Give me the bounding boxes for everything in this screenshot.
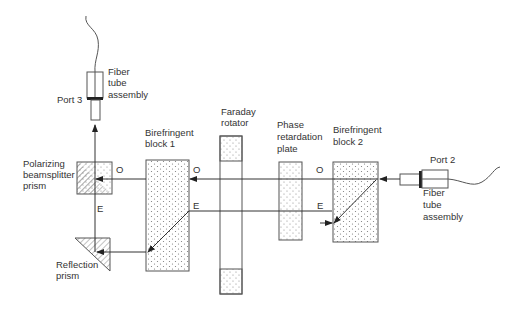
label-phase-3: plate xyxy=(277,143,298,154)
label-fiber-top-2: tube xyxy=(108,77,127,88)
label-fiber-right-1: Fiber xyxy=(423,187,445,198)
label-faraday-1: Faraday xyxy=(221,106,256,117)
label-pbs-2: beamsplitter xyxy=(23,169,75,180)
label-fiber-right-3: assembly xyxy=(423,211,463,222)
label-pbs-3: prism xyxy=(23,180,46,191)
label-e-pbs: E xyxy=(97,203,103,214)
birefringent-block-1 xyxy=(146,160,189,271)
faraday-rotator xyxy=(220,136,242,294)
fiber-end-top xyxy=(91,100,100,120)
label-bb2-1: Birefringent xyxy=(333,124,382,135)
label-port3: Port 3 xyxy=(57,94,82,105)
label-fiber-top-3: assembly xyxy=(108,89,148,100)
fiber-cable-top xyxy=(86,16,99,72)
label-bb1-2: block 1 xyxy=(145,138,175,149)
label-reflection-2: prism xyxy=(56,270,79,281)
label-phase-1: Phase xyxy=(277,119,304,130)
port3-fiber-assembly xyxy=(86,16,103,120)
fiber-cable-right xyxy=(448,167,500,184)
label-bb1-1: Birefringent xyxy=(145,127,194,138)
label-o-pbs: O xyxy=(116,164,123,175)
label-bb2-2: block 2 xyxy=(333,136,363,147)
fiber-end-right xyxy=(400,174,420,185)
port2-fiber-assembly xyxy=(400,167,500,188)
label-phase-2: retardation xyxy=(277,131,322,142)
phase-retardation-plate xyxy=(279,162,302,240)
label-reflection-1: Reflection xyxy=(56,259,98,270)
label-e-bb1: E xyxy=(193,200,199,211)
label-o-bb2: O xyxy=(316,164,323,175)
birefringent-block-2 xyxy=(333,162,378,242)
label-o-bb1: O xyxy=(193,164,200,175)
label-fiber-top: Fiber xyxy=(108,66,130,77)
label-e-bb2: E xyxy=(317,200,323,211)
label-faraday-2: rotator xyxy=(221,117,248,128)
label-pbs-1: Polarizing xyxy=(23,158,65,169)
label-fiber-right-2: tube xyxy=(423,199,442,210)
optical-circulator-diagram: Fiber tube assembly Port 3 Polarizing be… xyxy=(0,0,524,312)
label-port2: Port 2 xyxy=(430,154,455,165)
